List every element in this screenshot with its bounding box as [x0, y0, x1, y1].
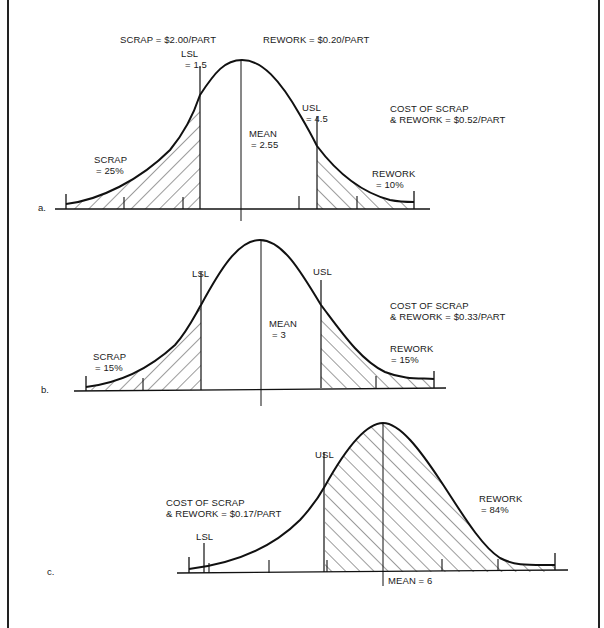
scrap-cost-header: SCRAP = $2.00/PART — [120, 34, 216, 45]
rework-pct-b: REWORK = 15% — [390, 343, 433, 365]
panel-letter-c: c. — [47, 566, 54, 577]
distribution-diagrams — [0, 0, 604, 628]
panel-a — [55, 60, 430, 221]
usl-label-a: USL = 4.5 — [302, 102, 328, 124]
scrap-area-a — [66, 95, 200, 209]
lsl-label-b: LSL — [192, 268, 209, 279]
lsl-label-c: LSL — [196, 531, 213, 542]
scrap-pct-a: SCRAP = 25% — [94, 154, 127, 176]
scrap-area-b — [86, 305, 201, 390]
total-cost-c: COST OF SCRAP & REWORK = $0.17/PART — [166, 497, 282, 519]
panel-letter-b: b. — [41, 384, 49, 395]
panel-letter-a: a. — [38, 202, 46, 213]
usl-label-b: USL — [313, 266, 332, 277]
mean-label-c: MEAN = 6 — [388, 575, 432, 586]
usl-label-c: USL — [315, 449, 334, 460]
panel-b — [74, 240, 446, 406]
total-cost-b: COST OF SCRAP & REWORK = $0.33/PART — [390, 300, 506, 322]
bell-curve-b — [86, 240, 434, 387]
rework-cost-header: REWORK = $0.20/PART — [263, 34, 369, 45]
mean-label-a: MEAN = 2.55 — [249, 128, 278, 150]
total-cost-a: COST OF SCRAP & REWORK = $0.52/PART — [390, 103, 506, 125]
scrap-pct-b: SCRAP = 15% — [93, 351, 126, 373]
rework-pct-a: REWORK = 10% — [372, 168, 415, 190]
mean-label-b: MEAN = 3 — [269, 318, 297, 340]
lsl-label-a: LSL = 1.5 — [181, 48, 207, 70]
rework-pct-c: REWORK = 84% — [479, 493, 522, 515]
bell-curve-a — [66, 60, 414, 204]
